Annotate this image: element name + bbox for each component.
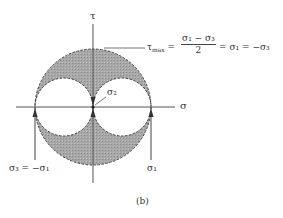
sigma1-label: σ₁	[147, 163, 157, 173]
max-subscript: max	[152, 46, 165, 53]
tau-axis-label: τ	[90, 10, 96, 21]
sigma2-label: σ₂	[107, 87, 117, 97]
figure-caption: (b)	[136, 196, 149, 206]
sigma-axis-label: σ	[180, 100, 187, 111]
left-arrow-icon	[33, 108, 38, 160]
equals-sign: =	[168, 42, 176, 52]
equation-rhs: = σ₁ = −σ₃	[219, 42, 270, 52]
fraction-denominator: 2	[181, 45, 216, 55]
fraction-numerator: σ₁ − σ₃	[181, 33, 216, 45]
fraction: σ₁ − σ₃ 2	[181, 33, 216, 55]
sigma3-label: σ₃ = −σ₁	[9, 163, 49, 173]
tau-max-equation: τmax =	[147, 42, 175, 53]
right-arrow-icon	[149, 108, 154, 160]
mohr-circle-diagram	[0, 0, 283, 218]
